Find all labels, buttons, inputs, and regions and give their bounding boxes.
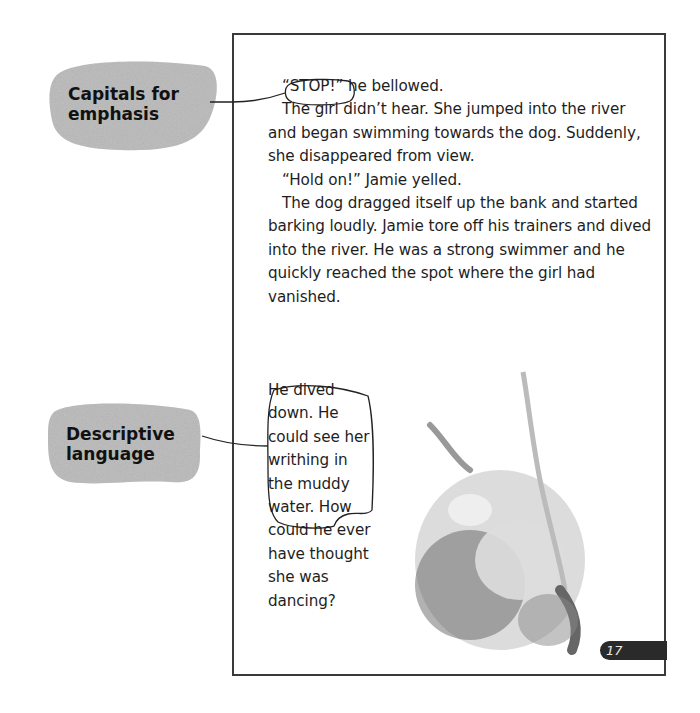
page-number: 17 [606, 641, 623, 660]
story-line: the muddy [268, 473, 418, 496]
story-line: could see her [268, 426, 418, 449]
story-line: down. He [268, 402, 418, 425]
story-line: He dived [268, 379, 418, 402]
story-line: writhing in [268, 449, 418, 472]
story-line: could he ever [268, 519, 418, 542]
story-line: she was [268, 566, 418, 589]
connector-line-descriptive [202, 436, 268, 446]
girl-underwater-illustration [415, 372, 585, 650]
story-line: have thought [268, 543, 418, 566]
callout-capitals-line2: emphasis [68, 104, 179, 124]
callout-capitals: Capitals for emphasis [68, 84, 179, 124]
story-paragraph: The girl didn’t hear. She jumped into th… [268, 98, 658, 168]
story-paragraph: “Hold on!” Jamie yelled. [268, 169, 658, 192]
callout-descriptive-line1: Descriptive [66, 424, 175, 444]
callout-descriptive-line2: language [66, 444, 175, 464]
callout-capitals-line1: Capitals for [68, 84, 179, 104]
story-line-stop: “STOP!” he bellowed. [268, 75, 658, 98]
story-narrow-column: He dived down. He could see her writhing… [268, 379, 418, 613]
stop-highlight: “STOP!” [282, 77, 343, 95]
callout-descriptive: Descriptive language [66, 424, 175, 464]
story-line: dancing? [268, 590, 418, 613]
story-line: water. How [268, 496, 418, 519]
story-text: “STOP!” he bellowed. The girl didn’t hea… [268, 75, 658, 309]
story-paragraph: The dog dragged itself up the bank and s… [268, 192, 658, 309]
